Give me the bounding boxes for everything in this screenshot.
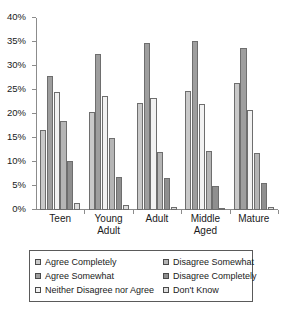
chart-legend: Agree CompletelyAgree SomewhatNeither Di… [29,250,253,302]
y-tick-label: 20% [0,106,26,119]
category-label: Teen [36,213,84,225]
y-tick: 0% [32,209,36,210]
category-label: Adult [133,213,181,225]
bar [240,48,246,210]
legend-item[interactable]: Agree Somewhat [35,269,163,283]
bar [54,92,60,210]
bar-group [185,18,225,210]
legend-item[interactable]: Agree Completely [35,255,163,269]
legend-swatch-icon [163,259,169,265]
y-tick: 40% [32,17,36,18]
bar [234,83,240,210]
bar [261,183,267,210]
x-tick [278,210,279,214]
legend-label: Agree Completely [45,256,117,268]
category-label-line: Mature [230,213,278,225]
legend-label: Neither Disagree nor Agree [45,284,154,296]
bar [247,110,253,210]
legend-item[interactable]: Disagree Completely [163,269,247,283]
bar [185,91,191,210]
bar [109,138,115,210]
legend-swatch-icon [163,287,169,293]
y-tick-label: 10% [0,154,26,167]
bar-group [137,18,177,210]
bar [254,153,260,210]
y-tick-label: 15% [0,130,26,143]
bar [123,205,129,210]
legend-label: Agree Somewhat [45,270,114,282]
bar-group [89,18,129,210]
y-tick: 35% [32,41,36,42]
y-tick: 5% [32,185,36,186]
y-tick: 20% [32,113,36,114]
bar-group [40,18,80,210]
y-tick: 15% [32,137,36,138]
bar [74,203,80,210]
category-label-line: Teen [36,213,84,225]
bar [95,54,101,210]
bar [164,178,170,210]
y-tick-label: 25% [0,82,26,95]
legend-label: Don't Know [173,284,219,296]
bar-chart-figure: 0%5%10%15%20%25%30%35%40% TeenYoungAdult… [0,0,282,315]
category-label-line: Adult [133,213,181,225]
bar [219,208,225,210]
bar [144,43,150,210]
bar [199,104,205,210]
y-tick-label: 30% [0,58,26,71]
legend-label: Disagree Completely [173,270,257,282]
bar [137,103,143,210]
legend-swatch-icon [35,259,41,265]
category-label: YoungAdult [84,213,132,236]
y-tick-label: 0% [0,202,26,215]
legend-label: Disagree Somewhat [173,256,254,268]
y-axis-line [36,18,37,210]
bar [268,207,274,210]
bar [171,207,177,210]
legend-item[interactable]: Disagree Somewhat [163,255,247,269]
bar [116,177,122,210]
bar [150,98,156,210]
bar [212,186,218,210]
category-label-line: Middle [181,213,229,225]
category-label-line: Adult [84,225,132,237]
bar [206,151,212,210]
bar [102,96,108,210]
legend-item[interactable]: Neither Disagree nor Agree [35,283,163,297]
bar [157,152,163,210]
bar [40,130,46,210]
legend-column-right: Disagree SomewhatDisagree CompletelyDon'… [163,255,247,297]
legend-item[interactable]: Don't Know [163,283,247,297]
category-label-line: Aged [181,225,229,237]
category-label-line: Young [84,213,132,225]
y-tick: 25% [32,89,36,90]
bar [60,121,66,210]
y-tick-label: 40% [0,10,26,23]
category-label: MiddleAged [181,213,229,236]
legend-swatch-icon [35,287,41,293]
bar [67,161,73,210]
y-tick: 10% [32,161,36,162]
y-tick-label: 5% [0,178,26,191]
legend-column-left: Agree CompletelyAgree SomewhatNeither Di… [35,255,163,297]
bar-group [234,18,274,210]
legend-swatch-icon [163,273,169,279]
y-tick: 30% [32,65,36,66]
legend-swatch-icon [35,273,41,279]
plot-area: 0%5%10%15%20%25%30%35%40% [36,18,278,210]
bar [192,41,198,210]
y-tick-label: 35% [0,34,26,47]
bar [47,76,53,210]
category-label: Mature [230,213,278,225]
bar [89,112,95,210]
